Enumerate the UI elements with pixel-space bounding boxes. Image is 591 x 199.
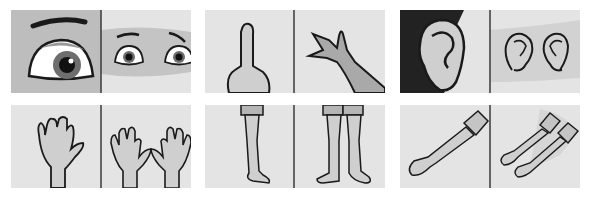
card-fingers: [205, 10, 385, 93]
card-eyes: [11, 10, 191, 93]
card-arms: [400, 105, 580, 188]
arms-illustration: [400, 105, 580, 188]
card-legs: [205, 105, 385, 188]
ears-illustration: [400, 10, 580, 93]
hands-illustration: [11, 105, 191, 188]
legs-illustration: [205, 105, 385, 188]
card-ears: [400, 10, 580, 93]
fingers-illustration: [205, 10, 385, 93]
eyes-illustration: [11, 10, 191, 93]
card-hands: [11, 105, 191, 188]
